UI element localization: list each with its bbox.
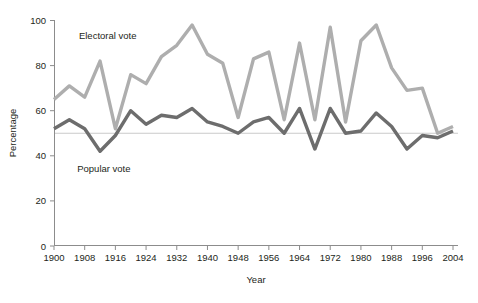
y-tick-label: 0 [41, 241, 46, 252]
x-axis-title: Year [246, 274, 265, 285]
y-axis-title: Percentage [7, 109, 18, 158]
y-tick-label: 80 [35, 60, 46, 71]
x-tick-label: 1956 [258, 252, 279, 263]
x-tick-label: 1916 [105, 252, 126, 263]
annotation-popular-vote: Popular vote [77, 163, 130, 174]
x-tick-label: 1940 [197, 252, 218, 263]
x-tick-label: 1908 [74, 252, 95, 263]
x-tick-label: 1948 [228, 252, 249, 263]
y-tick-label: 20 [35, 195, 46, 206]
y-tick-label: 60 [35, 105, 46, 116]
x-tick-label: 2004 [442, 252, 463, 263]
annotation-electoral-vote: Electoral vote [79, 30, 137, 41]
x-tick-label: 1964 [289, 252, 310, 263]
x-tick-label: 1972 [320, 252, 341, 263]
chart-container: 020406080100 190019081916192419321940194… [0, 0, 478, 303]
x-tick-label: 1932 [166, 252, 187, 263]
x-tick-label: 1980 [350, 252, 371, 263]
x-tick-label: 1900 [43, 252, 64, 263]
x-tick-label: 1924 [136, 252, 157, 263]
x-axis-ticks: 1900190819161924193219401948195619641972… [43, 246, 463, 263]
line-chart: 020406080100 190019081916192419321940194… [0, 0, 478, 303]
y-tick-label: 100 [30, 15, 46, 26]
series-line-electoral-vote [54, 25, 453, 133]
y-axis-ticks: 020406080100 [30, 15, 54, 252]
x-tick-label: 1996 [412, 252, 433, 263]
x-tick-label: 1988 [381, 252, 402, 263]
y-tick-label: 40 [35, 150, 46, 161]
